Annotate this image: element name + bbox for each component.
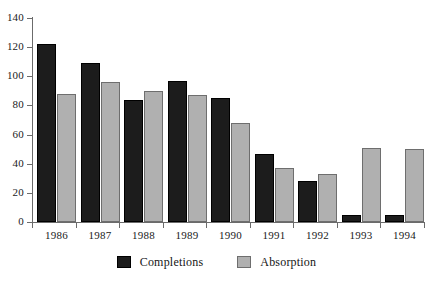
legend-label-completions: Completions <box>140 256 204 269</box>
legend-entry-completions: Completions <box>117 256 204 269</box>
bar-group-1994 <box>385 18 427 222</box>
y-tick-label-120: 120 <box>0 41 24 52</box>
x-tick-9 <box>424 222 425 228</box>
bar-absorption-1992 <box>318 174 337 222</box>
bar-group-1988 <box>124 18 166 222</box>
x-tick-4 <box>206 222 207 228</box>
x-tick-5 <box>250 222 251 228</box>
bar-absorption-1994 <box>405 149 424 222</box>
x-tick-3 <box>163 222 164 228</box>
bar-absorption-1988 <box>144 91 163 222</box>
x-tick-0 <box>32 222 33 228</box>
bar-absorption-1991 <box>275 168 294 222</box>
bar-group-1986 <box>37 18 79 222</box>
x-tick-7 <box>337 222 338 228</box>
bar-completions-1993 <box>342 215 361 222</box>
legend-entry-absorption: Absorption <box>237 256 316 269</box>
bar-group-1993 <box>342 18 384 222</box>
legend-swatch-absorption-icon <box>237 256 251 268</box>
bar-absorption-1987 <box>101 82 120 222</box>
x-axis-line <box>32 222 425 223</box>
bar-group-1987 <box>81 18 123 222</box>
y-tick-label-0: 0 <box>0 216 24 227</box>
x-tick-2 <box>119 222 120 228</box>
bar-completions-1992 <box>298 181 317 222</box>
bar-completions-1987 <box>81 63 100 222</box>
x-tick-6 <box>293 222 294 228</box>
plot-area <box>33 18 425 222</box>
x-tick-1 <box>76 222 77 228</box>
bar-absorption-1986 <box>57 94 76 222</box>
bar-absorption-1993 <box>362 148 381 222</box>
y-tick-label-100: 100 <box>0 70 24 81</box>
y-tick-label-80: 80 <box>0 99 24 110</box>
bar-completions-1991 <box>255 154 274 222</box>
bar-group-1989 <box>168 18 210 222</box>
bar-completions-1990 <box>211 98 230 222</box>
bar-absorption-1990 <box>231 123 250 222</box>
bar-completions-1994 <box>385 215 404 222</box>
bar-group-1990 <box>211 18 253 222</box>
chart-legend: Completions Absorption <box>0 252 433 272</box>
bar-completions-1989 <box>168 81 187 222</box>
y-tick-label-40: 40 <box>0 158 24 169</box>
bar-completions-1986 <box>37 44 56 222</box>
y-tick-label-20: 20 <box>0 187 24 198</box>
y-tick-label-140: 140 <box>0 12 24 23</box>
x-tick-label-1994: 1994 <box>375 229 433 241</box>
bar-group-1991 <box>255 18 297 222</box>
x-tick-8 <box>380 222 381 228</box>
bar-group-1992 <box>298 18 340 222</box>
bar-completions-1988 <box>124 100 143 222</box>
legend-swatch-completions-icon <box>117 256 131 268</box>
bar-absorption-1989 <box>188 95 207 222</box>
legend-label-absorption: Absorption <box>260 256 316 269</box>
y-tick-label-60: 60 <box>0 129 24 140</box>
bar-chart: 020406080100120140 198619871988198919901… <box>0 0 433 281</box>
